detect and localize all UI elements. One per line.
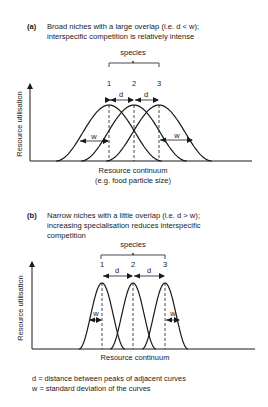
panel-a-x-sublabel: (e.g. food particle size) bbox=[95, 176, 171, 185]
panel-a-d-label-2: d bbox=[144, 90, 148, 99]
panel-b-d-label-2: d bbox=[147, 266, 151, 275]
panel-a-species-bracket bbox=[109, 61, 159, 67]
panel-b: species 1 2 3 Resource utilisation Resou… bbox=[16, 240, 255, 362]
legend-d-definition: d = distance between peaks of adjacent c… bbox=[32, 374, 186, 384]
panel-b-species-label: species bbox=[120, 240, 146, 249]
panel-a-w-label-left: w bbox=[90, 132, 97, 141]
panel-b-w-arrowhead-right bbox=[166, 318, 172, 323]
panel-a-species-label: species bbox=[120, 48, 146, 57]
panel-b-w-label-right: w bbox=[169, 309, 176, 318]
panel-b-species-bracket bbox=[101, 253, 165, 259]
niche-diagram: species 1 2 3 Resource utilisation Resou… bbox=[0, 0, 268, 407]
panel-a: species 1 2 3 Resource utilisation Resou… bbox=[15, 48, 252, 185]
legend-w-definition: w = standard deviation of the curves bbox=[32, 384, 186, 394]
panel-b-d-label-1: d bbox=[115, 266, 119, 275]
panel-b-species-1: 1 bbox=[100, 260, 104, 269]
panel-a-x-label: Resource continuum bbox=[99, 166, 168, 175]
legend: d = distance between peaks of adjacent c… bbox=[32, 374, 186, 393]
panel-b-x-label: Resource continuum bbox=[101, 353, 170, 362]
panel-a-species-1: 1 bbox=[107, 79, 111, 88]
panel-a-w-arrowhead-left bbox=[80, 139, 86, 144]
panel-b-y-label: Resource utilisation bbox=[16, 275, 25, 340]
panel-b-species-2: 2 bbox=[131, 260, 135, 269]
panel-a-y-label: Resource utilisation bbox=[15, 91, 24, 156]
panel-b-w-label-left: w bbox=[92, 309, 99, 318]
panel-a-species-2: 2 bbox=[132, 79, 136, 88]
panel-a-w-label-right: w bbox=[173, 131, 180, 140]
panel-a-d-label-1: d bbox=[119, 90, 123, 99]
panel-a-species-3: 3 bbox=[157, 79, 161, 88]
panel-b-species-3: 3 bbox=[163, 260, 167, 269]
